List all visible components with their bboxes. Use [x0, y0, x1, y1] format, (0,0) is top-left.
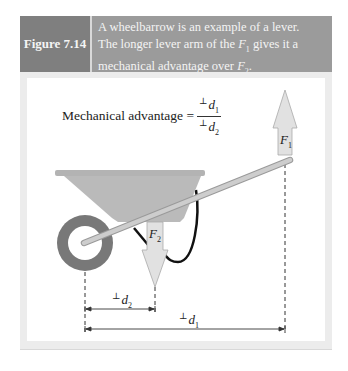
force-symbol: F [280, 132, 288, 147]
label-f1: F1 [280, 132, 292, 150]
distance-subscript: 2 [215, 128, 219, 137]
mechanical-advantage-formula: Mechanical advantage = ⊥d1 ⊥d2 [62, 96, 221, 137]
formula-fraction: ⊥d1 ⊥d2 [197, 96, 221, 137]
force-symbol: F [149, 226, 157, 241]
distance-subscript: 2 [128, 301, 132, 310]
force-subscript: 1 [288, 141, 292, 150]
label-f2: F2 [149, 226, 161, 244]
formula-numerator: ⊥d1 [197, 96, 221, 117]
perp-symbol: ⊥ [112, 291, 120, 301]
force-subscript: 2 [157, 235, 161, 244]
formula-label: Mechanical advantage = [62, 108, 194, 124]
distance-subscript: 1 [195, 321, 199, 330]
distance-subscript: 1 [215, 106, 219, 115]
wheelbarrow-tray [55, 170, 205, 222]
formula-denominator: ⊥d2 [199, 117, 219, 137]
perp-symbol: ⊥ [199, 96, 207, 106]
wheelbarrow-diagram [0, 0, 348, 371]
perp-symbol: ⊥ [179, 311, 187, 321]
label-d2: ⊥d2 [112, 291, 132, 310]
perp-symbol: ⊥ [199, 118, 207, 128]
label-d1: ⊥d1 [179, 311, 199, 330]
